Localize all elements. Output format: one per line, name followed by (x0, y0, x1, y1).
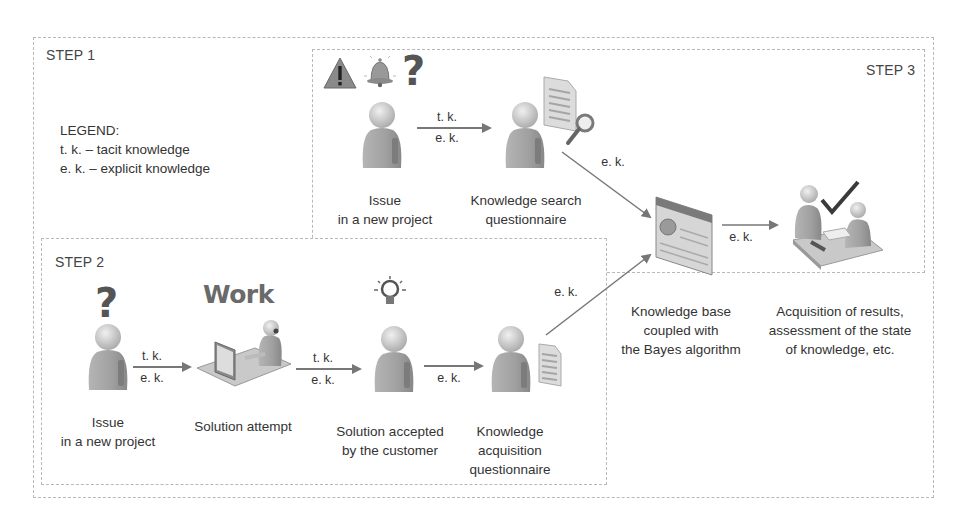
legend-item-tacit: t. k. – tacit knowledge (60, 140, 210, 159)
caption-results: Acquisition of results, assessment of th… (769, 302, 912, 359)
flow-label-ek: e. k. (437, 371, 461, 385)
caption-knowledge-base: Knowledge base coupled with the Bayes al… (621, 302, 740, 359)
caption-solution-attempt: Solution attempt (194, 417, 292, 436)
person-icon (83, 318, 133, 393)
flow-label-tk: t. k. (437, 110, 457, 124)
lightbulb-icon (372, 275, 408, 313)
legend: LEGEND: t. k. – tacit knowledge e. k. – … (60, 121, 210, 178)
legend-item-explicit: e. k. – explicit knowledge (60, 159, 210, 178)
caption-search-questionnaire: Knowledge search questionnaire (470, 191, 581, 229)
flow-label-tk: t. k. (142, 349, 162, 363)
person-icon (486, 320, 536, 395)
document-icon (537, 342, 563, 388)
caption-solution-accepted: Solution accepted by the customer (336, 422, 443, 460)
caption-issue-step2: Issue in a new project (61, 413, 156, 451)
workstation-icon (195, 318, 295, 388)
magnifier-icon (565, 112, 597, 146)
caption-issue: Issue in a new project (338, 191, 433, 229)
warning-icon (322, 56, 358, 90)
flow-label-tk: t. k. (313, 351, 333, 365)
caption-acquisition-questionnaire: Knowledge acquisition questionnaire (469, 422, 550, 479)
step3-label: STEP 3 (866, 62, 915, 78)
question-icon: ? (402, 48, 425, 94)
checkmark-icon (820, 180, 860, 216)
legend-title: LEGEND: (60, 121, 210, 140)
work-heading: Work (203, 280, 274, 309)
flow-label-ek: e. k. (729, 230, 753, 244)
step1-label: STEP 1 (46, 47, 95, 63)
step2-label: STEP 2 (55, 254, 104, 270)
bell-icon (362, 54, 398, 90)
flow-label-ek: e. k. (554, 285, 578, 299)
flow-label-ek: e. k. (601, 155, 625, 169)
database-panel-icon (652, 195, 716, 277)
flow-label-ek: e. k. (311, 373, 335, 387)
flow-label-ek: e. k. (140, 371, 164, 385)
person-icon (369, 320, 419, 395)
flow-label-ek: e. k. (435, 131, 459, 145)
person-icon (357, 96, 407, 171)
